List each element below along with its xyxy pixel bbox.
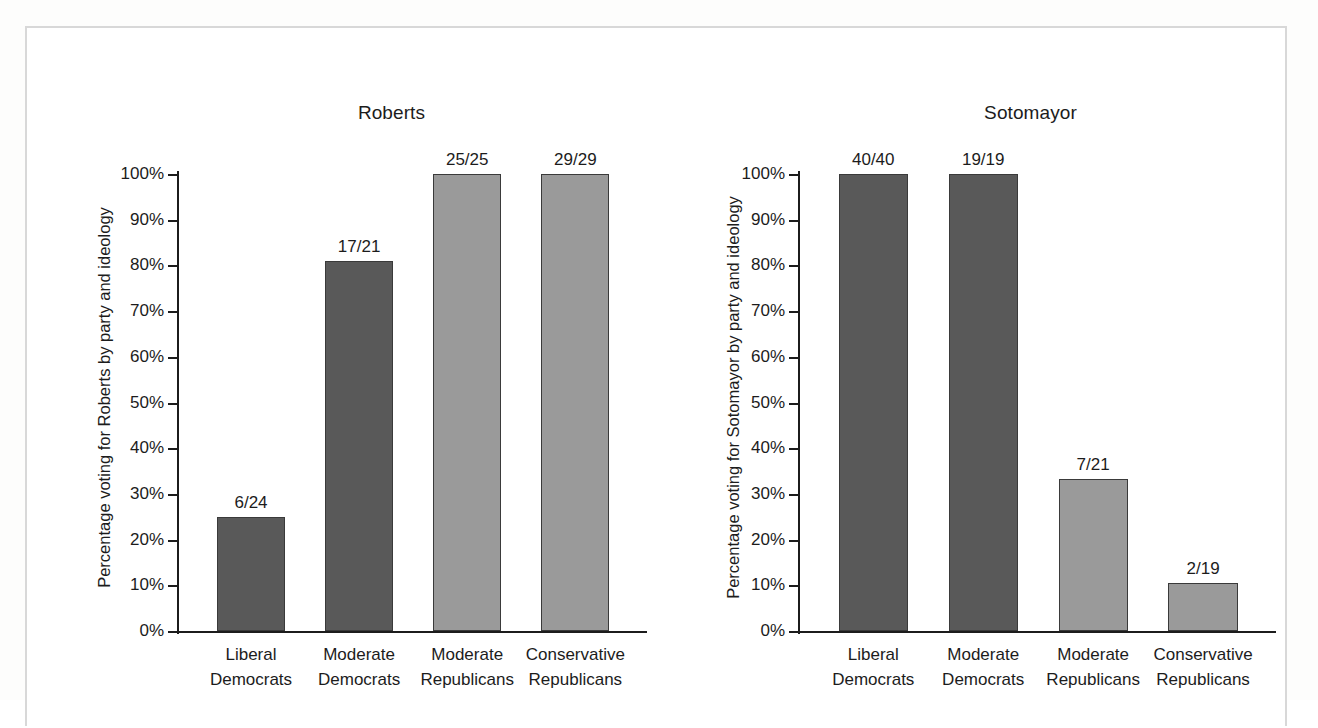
bar-moderate-democrats: 19/19ModerateDemocrats bbox=[949, 174, 1018, 631]
bar-value-label: 29/29 bbox=[554, 150, 597, 170]
y-tick-label: 90% bbox=[751, 210, 785, 230]
tick-mark bbox=[789, 265, 798, 267]
bar-value-label: 40/40 bbox=[852, 150, 895, 170]
y-tick-label: 0% bbox=[139, 621, 164, 641]
tick-mark bbox=[789, 494, 798, 496]
x-category-label: LiberalDemocrats bbox=[210, 642, 292, 692]
chart-title-sotomayor: Sotomayor bbox=[716, 102, 1318, 124]
y-tick-label: 40% bbox=[130, 438, 164, 458]
tick-mark bbox=[168, 540, 177, 542]
tick-mark bbox=[789, 403, 798, 405]
tick-mark bbox=[168, 448, 177, 450]
tick-mark bbox=[168, 220, 177, 222]
tick-mark bbox=[168, 494, 177, 496]
bar-liberal-democrats: 6/24LiberalDemocrats bbox=[217, 517, 285, 631]
x-category-line1: Moderate bbox=[420, 642, 514, 667]
x-category-line1: Conservative bbox=[526, 642, 625, 667]
y-tick-label: 30% bbox=[130, 484, 164, 504]
tick-mark bbox=[168, 265, 177, 267]
y-tick-label: 60% bbox=[130, 347, 164, 367]
y-tick-label: 80% bbox=[751, 255, 785, 275]
x-category-line2: Democrats bbox=[318, 667, 400, 692]
tick-mark bbox=[168, 357, 177, 359]
y-tick-label: 10% bbox=[751, 575, 785, 595]
y-axis-line bbox=[798, 171, 800, 634]
y-tick-label: 50% bbox=[751, 393, 785, 413]
y-tick-label: 70% bbox=[751, 301, 785, 321]
plot-area-sotomayor: 0%10%20%30%40%50%60%70%80%90%100% 40/40L… bbox=[798, 174, 1276, 631]
x-category-line2: Republicans bbox=[526, 667, 625, 692]
tick-mark bbox=[789, 357, 798, 359]
bar-value-label: 17/21 bbox=[338, 237, 381, 257]
y-tick-label: 90% bbox=[130, 210, 164, 230]
x-category-label: ModerateRepublicans bbox=[420, 642, 514, 692]
tick-mark bbox=[789, 448, 798, 450]
plot-area-roberts: 0%10%20%30%40%50%60%70%80%90%100% 6/24Li… bbox=[177, 174, 647, 631]
tick-mark bbox=[789, 311, 798, 313]
y-tick-label: 30% bbox=[751, 484, 785, 504]
tick-mark bbox=[168, 403, 177, 405]
x-category-line1: Liberal bbox=[832, 642, 914, 667]
y-axis-label-roberts: Percentage voting for Roberts by party a… bbox=[95, 188, 114, 608]
bar-value-label: 25/25 bbox=[446, 150, 489, 170]
y-axis-label-sotomayor: Percentage voting for Sotomayor by party… bbox=[724, 188, 743, 608]
x-category-label: ModerateDemocrats bbox=[942, 642, 1024, 692]
x-category-line1: Conservative bbox=[1153, 642, 1252, 667]
tick-mark bbox=[168, 311, 177, 313]
y-tick-label: 100% bbox=[121, 164, 164, 184]
x-category-label: ConservativeRepublicans bbox=[526, 642, 625, 692]
x-category-line2: Democrats bbox=[832, 667, 914, 692]
y-tick-label: 100% bbox=[742, 164, 785, 184]
bar-moderate-republicans: 25/25ModerateRepublicans bbox=[433, 174, 501, 631]
bar-liberal-democrats: 40/40LiberalDemocrats bbox=[839, 174, 908, 631]
bar-conservative-republicans: 2/19ConservativeRepublicans bbox=[1168, 583, 1237, 631]
y-tick-label: 0% bbox=[760, 621, 785, 641]
x-axis-line bbox=[177, 631, 647, 633]
x-axis-line bbox=[798, 631, 1276, 633]
x-category-line2: Republicans bbox=[420, 667, 514, 692]
tick-mark bbox=[168, 174, 177, 176]
y-tick-label: 60% bbox=[751, 347, 785, 367]
bar-value-label: 2/19 bbox=[1187, 559, 1220, 579]
x-category-label: LiberalDemocrats bbox=[832, 642, 914, 692]
figure-frame: Roberts Percentage voting for Roberts by… bbox=[25, 26, 1287, 726]
y-axis-line bbox=[177, 171, 179, 634]
y-tick-label: 80% bbox=[130, 255, 164, 275]
x-category-line1: Moderate bbox=[1046, 642, 1140, 667]
y-tick-label: 70% bbox=[130, 301, 164, 321]
bar-value-label: 7/21 bbox=[1077, 455, 1110, 475]
x-category-line1: Moderate bbox=[318, 642, 400, 667]
bar-value-label: 6/24 bbox=[234, 493, 267, 513]
x-category-line1: Liberal bbox=[210, 642, 292, 667]
y-tick-label: 20% bbox=[130, 530, 164, 550]
x-category-label: ConservativeRepublicans bbox=[1153, 642, 1252, 692]
tick-mark bbox=[789, 174, 798, 176]
tick-mark bbox=[789, 220, 798, 222]
tick-mark bbox=[168, 631, 177, 633]
bar-conservative-republicans: 29/29ConservativeRepublicans bbox=[541, 174, 609, 631]
x-category-line2: Democrats bbox=[942, 667, 1024, 692]
y-tick-label: 10% bbox=[130, 575, 164, 595]
tick-mark bbox=[168, 585, 177, 587]
y-tick-label: 50% bbox=[130, 393, 164, 413]
y-tick-label: 20% bbox=[751, 530, 785, 550]
x-category-line2: Democrats bbox=[210, 667, 292, 692]
x-category-line2: Republicans bbox=[1046, 667, 1140, 692]
x-category-label: ModerateDemocrats bbox=[318, 642, 400, 692]
tick-mark bbox=[789, 585, 798, 587]
bar-value-label: 19/19 bbox=[962, 150, 1005, 170]
y-tick-label: 40% bbox=[751, 438, 785, 458]
tick-mark bbox=[789, 540, 798, 542]
chart-panel-roberts: Roberts Percentage voting for Roberts by… bbox=[57, 28, 686, 728]
tick-mark bbox=[789, 631, 798, 633]
bar-moderate-democrats: 17/21ModerateDemocrats bbox=[325, 261, 393, 631]
x-category-label: ModerateRepublicans bbox=[1046, 642, 1140, 692]
x-category-line1: Moderate bbox=[942, 642, 1024, 667]
bar-moderate-republicans: 7/21ModerateRepublicans bbox=[1059, 479, 1128, 631]
chart-panel-sotomayor: Sotomayor Percentage voting for Sotomayo… bbox=[686, 28, 1315, 728]
chart-title-roberts: Roberts bbox=[77, 102, 706, 124]
x-category-line2: Republicans bbox=[1153, 667, 1252, 692]
